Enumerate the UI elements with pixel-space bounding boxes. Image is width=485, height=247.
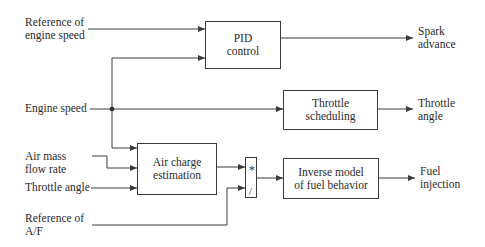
divide-operator: / (249, 185, 252, 198)
inverse-fuel-model-label: Inverse model of fuel behavior (294, 166, 367, 192)
junction-dot (110, 107, 115, 112)
air-charge-estimation-label: Air charge estimation (153, 156, 202, 182)
label-ref-engine-speed: Reference of engine speed (25, 16, 85, 42)
label-fuel-injection: Fuel injection (420, 165, 460, 191)
throttle-scheduling-label: Throttle scheduling (306, 97, 356, 123)
line-speed-to-pid (112, 58, 205, 109)
label-ref-af: Reference of A/F (25, 212, 84, 238)
label-throttle-angle-output: Throttle angle (418, 97, 455, 123)
inverse-fuel-model-block: Inverse model of fuel behavior (283, 158, 379, 199)
multiply-operator: * (249, 164, 255, 177)
air-charge-estimation-block: Air charge estimation (137, 143, 217, 195)
pid-control-label: PID control (227, 32, 260, 58)
divider-block: * / (245, 157, 257, 198)
throttle-scheduling-block: Throttle scheduling (283, 90, 378, 130)
pid-control-block: PID control (205, 21, 281, 69)
line-air-mass-to-air-charge (92, 156, 137, 168)
label-throttle-angle-input: Throttle angle (25, 181, 90, 194)
label-engine-speed: Engine speed (25, 102, 87, 115)
label-air-mass-flow: Air mass flow rate (25, 150, 66, 176)
line-speed-to-air-charge (112, 109, 137, 148)
label-spark-advance: Spark advance (418, 25, 456, 51)
